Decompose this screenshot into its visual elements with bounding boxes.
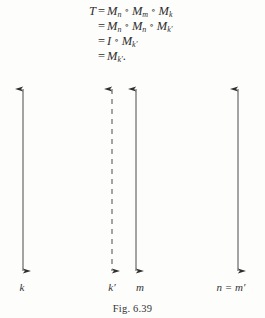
axis-label-k: k (20, 281, 25, 293)
equation-line-4-rhs: =Mk′. (98, 49, 126, 64)
figure-container: T =Mn∘Mm∘Mk =Mn∘Mn∘Mk′ =I∘Mk′ =Mk′. (0, 0, 265, 318)
equation-line-3-rhs: =I∘Mk′ (98, 34, 137, 49)
figure-caption: Fig. 6.39 (0, 303, 265, 314)
equation-line-2: =Mn∘Mn∘Mk′ (0, 19, 265, 34)
axis-label-n-m-prime: n = m′ (217, 281, 246, 293)
equation-line-1: T =Mn∘Mm∘Mk (0, 4, 265, 19)
equation-line-1-rhs: =Mn∘Mm∘Mk (98, 4, 173, 19)
equation-line-4: =Mk′. (0, 49, 265, 64)
axis-label-m: m (136, 281, 144, 293)
equation-line-2-rhs: =Mn∘Mn∘Mk′ (98, 19, 172, 34)
derivation-block: T =Mn∘Mm∘Mk =Mn∘Mn∘Mk′ =I∘Mk′ =Mk′. (0, 4, 265, 64)
equation-line-3: =I∘Mk′ (0, 34, 265, 49)
equation-line-1-lhs: T (0, 4, 98, 19)
axis-label-k-prime: k′ (108, 281, 115, 293)
